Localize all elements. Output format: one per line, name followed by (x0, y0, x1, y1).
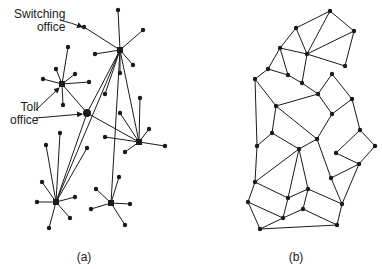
trunk-line (87, 50, 120, 113)
switching-office-node (108, 200, 114, 206)
local-loop-line (120, 30, 143, 50)
mesh-link (299, 149, 308, 189)
mesh-node (253, 77, 257, 81)
mesh-node (270, 131, 274, 135)
telephone-node (93, 52, 97, 56)
mesh-link (303, 189, 308, 209)
mesh-link (302, 54, 307, 83)
telephone-node (128, 202, 132, 206)
mesh-link (317, 114, 332, 139)
mesh-link (288, 189, 308, 198)
mesh-link (352, 99, 360, 130)
mesh-node (352, 29, 356, 33)
telephone-node (103, 92, 107, 96)
local-loop-line (118, 10, 120, 50)
mesh-link (307, 31, 354, 54)
mesh-node (255, 144, 259, 148)
mesh-link (272, 106, 276, 133)
mesh-node (281, 216, 285, 220)
mesh-link (296, 28, 307, 54)
mesh-node (266, 67, 270, 71)
mesh-link (280, 28, 296, 48)
telephone-node (41, 77, 45, 81)
mesh-node (246, 200, 250, 204)
mesh-link (255, 79, 276, 106)
telephone-node (118, 71, 122, 75)
mesh-link (280, 48, 307, 54)
mesh-link (360, 130, 375, 146)
telephone-node (131, 63, 135, 67)
telephone-node (73, 72, 77, 76)
mesh-link (318, 74, 332, 94)
mesh-link (307, 11, 330, 54)
telephone-node (44, 143, 48, 147)
telephone-node (123, 223, 127, 227)
switching-office-node (59, 81, 65, 87)
telephone-node (58, 131, 62, 135)
mesh-link (283, 198, 288, 218)
mesh-link (299, 139, 317, 149)
toll-office-label: Toll office (10, 101, 38, 127)
switching-office-node (53, 199, 59, 205)
telephone-node (147, 127, 151, 131)
toll-office-line2: office (10, 114, 38, 127)
toll-office-arrow-1 (36, 88, 59, 110)
telephone-node (35, 200, 39, 204)
switching-office-line2: office (14, 21, 65, 34)
switching-office-node (136, 139, 142, 145)
mesh-link (260, 225, 337, 229)
mesh-node (357, 162, 361, 166)
mesh-link (248, 182, 255, 202)
telephone-node (82, 25, 86, 29)
local-loop-line (62, 82, 89, 84)
telephone-node (116, 8, 120, 12)
star-hierarchy-network (35, 8, 167, 230)
telephone-node (85, 146, 89, 150)
toll-office-node (83, 109, 91, 117)
telephone-node (89, 207, 93, 211)
mesh-node (286, 73, 290, 77)
mesh-link (248, 202, 283, 218)
mesh-node (358, 128, 362, 132)
telephone-node (87, 80, 91, 84)
telephone-node (94, 187, 98, 191)
mesh-link (257, 133, 272, 146)
telephone-node (103, 135, 107, 139)
mesh-link (268, 69, 288, 75)
caption-b: (b) (289, 250, 304, 264)
mesh-link (359, 146, 375, 164)
toll-office-arrow-2 (36, 114, 82, 118)
mesh-node (330, 72, 334, 76)
mesh-node (305, 52, 309, 56)
local-loop-line (84, 27, 120, 50)
mesh-link (260, 218, 283, 229)
mesh-link (336, 130, 360, 153)
mesh-link (255, 146, 257, 182)
mesh-link (272, 133, 299, 149)
mesh-link (307, 54, 345, 66)
mesh-link (283, 209, 303, 218)
local-loop-line (62, 84, 63, 105)
mesh-node (253, 180, 257, 184)
mesh-link (318, 94, 332, 114)
mesh-node (300, 81, 304, 85)
local-loop-line (139, 98, 140, 142)
mesh-link (345, 31, 354, 66)
mesh-node (297, 147, 301, 151)
mesh-link (276, 106, 317, 139)
telephone-node (66, 45, 70, 49)
telephone-node (73, 195, 77, 199)
mesh-node (301, 207, 305, 211)
mesh-link (255, 182, 288, 198)
mesh-node (373, 144, 377, 148)
mesh-network (246, 9, 377, 231)
mesh-node (315, 137, 319, 141)
mesh-node (274, 104, 278, 108)
mesh-link (302, 83, 318, 94)
local-loop-line (49, 202, 56, 228)
trunk-line (87, 113, 139, 142)
mesh-link (276, 94, 318, 106)
mesh-link (248, 202, 260, 229)
telephone-node (54, 67, 58, 71)
mesh-node (335, 223, 339, 227)
